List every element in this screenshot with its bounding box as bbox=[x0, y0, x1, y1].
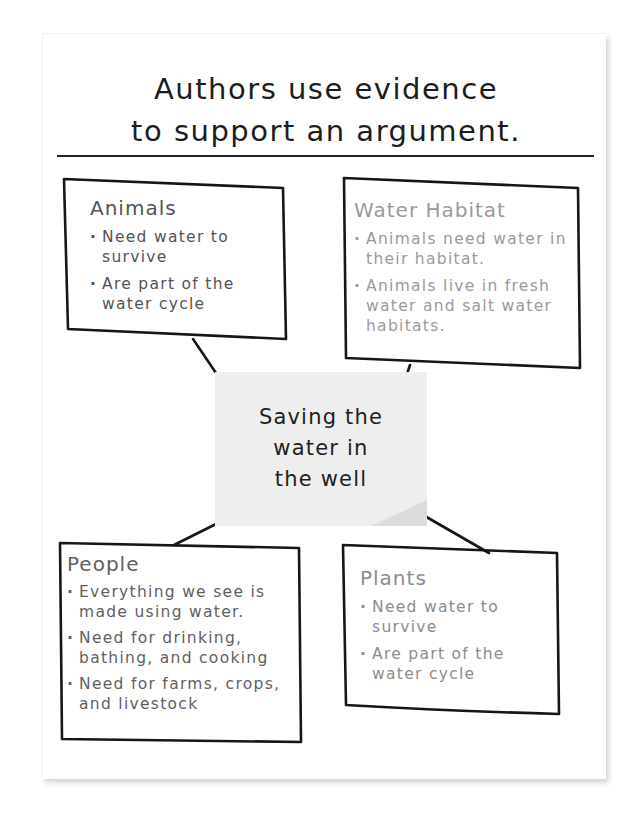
page-curl-icon bbox=[371, 500, 427, 526]
bullet-item: Everything we see is made using water. bbox=[67, 582, 307, 622]
box-heading: People bbox=[67, 552, 307, 576]
bullet-item: Are part of the water cycle bbox=[360, 644, 560, 684]
bullet-item: Need water to survive bbox=[90, 227, 280, 267]
box-heading: Plants bbox=[360, 566, 560, 590]
bullet-item: Need for drinking, bathing, and cooking bbox=[67, 628, 307, 668]
connector-animals bbox=[193, 339, 216, 373]
evidence-box-people: People Everything we see is made using w… bbox=[67, 552, 307, 714]
bullet-item: Are part of the water cycle bbox=[90, 274, 280, 314]
box-heading: Water Habitat bbox=[354, 198, 584, 222]
central-topic-sticky-note: Saving the water in the well bbox=[215, 372, 427, 526]
bullet-item: Need for farms, crops, and livestock bbox=[67, 674, 307, 714]
central-topic-line-1: Saving the bbox=[215, 402, 427, 433]
evidence-box-plants: Plants Need water to survive Are part of… bbox=[360, 566, 560, 684]
box-heading: Animals bbox=[90, 196, 280, 220]
central-topic-line-2: water in bbox=[215, 433, 427, 464]
evidence-box-animals: Animals Need water to survive Are part o… bbox=[90, 196, 280, 314]
bullet-item: Animals live in fresh water and salt wat… bbox=[354, 276, 584, 336]
connector-people bbox=[174, 523, 218, 545]
bullet-item: Need water to survive bbox=[360, 597, 560, 637]
bullet-item: Animals need water in their habitat. bbox=[354, 229, 584, 269]
evidence-box-water-habitat: Water Habitat Animals need water in thei… bbox=[354, 198, 584, 336]
central-topic-line-3: the well bbox=[215, 464, 427, 495]
